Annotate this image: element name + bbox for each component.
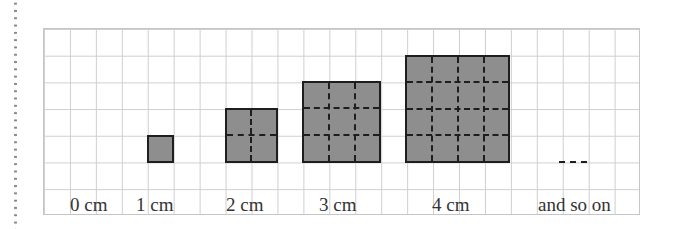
square-4cm-divider xyxy=(431,57,433,161)
square-3cm-divider xyxy=(354,83,356,161)
label-2cm: 2 cm xyxy=(226,195,263,215)
square-3cm xyxy=(302,81,381,163)
square-3cm-divider xyxy=(304,134,379,136)
label-4cm: 4 cm xyxy=(432,195,469,215)
label-0cm: 0 cm xyxy=(70,195,107,215)
label-3cm: 3 cm xyxy=(319,195,356,215)
dotted-margin-line xyxy=(14,0,17,229)
square-4cm-divider xyxy=(483,57,485,161)
square-4cm-divider xyxy=(457,57,459,161)
label-and-so-on: and so on xyxy=(538,195,611,215)
square-3cm-divider xyxy=(304,107,379,109)
square-3cm-divider xyxy=(328,83,330,161)
square-1cm xyxy=(147,135,174,163)
square-2cm-divider xyxy=(250,110,252,161)
continuation-dash xyxy=(559,161,587,163)
label-1cm: 1 cm xyxy=(136,195,173,215)
